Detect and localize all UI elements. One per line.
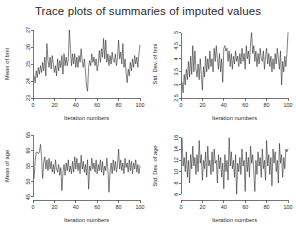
y-tick-label: 50 [25, 178, 31, 184]
y-axis-title: Mean of bmi [4, 48, 10, 80]
y-tick-label: 45 [25, 194, 31, 200]
trace-line [182, 138, 288, 195]
x-tick-label: 0 [180, 102, 183, 108]
x-tick-label: 100 [284, 102, 293, 108]
x-tick-label: 100 [136, 102, 145, 108]
y-axis-title: Std. Dev. of age [152, 145, 158, 186]
x-tick-label: 60 [242, 204, 248, 210]
y-tick-label: 3 [173, 83, 179, 86]
trace-chart-3: 020406080100Iteration numbers4550556065M… [0, 124, 148, 226]
y-tick-label: 16 [173, 135, 179, 141]
x-tick-label: 60 [242, 102, 248, 108]
trace-chart-1: 020406080100Iteration numbers2324252627M… [0, 22, 148, 124]
y-tick-label: 3.5 [173, 68, 179, 76]
y-tick-label: 65 [25, 132, 31, 138]
x-axis-title: Iteration numbers [212, 217, 257, 223]
y-tick-label: 55 [25, 163, 31, 169]
x-axis-title: Iteration numbers [64, 217, 109, 223]
trace-plot-figure: Trace plots of summaries of imputed valu… [0, 0, 296, 232]
x-tick-label: 0 [32, 204, 35, 210]
trace-line [34, 30, 140, 91]
x-tick-label: 100 [284, 204, 293, 210]
page-title: Trace plots of summaries of imputed valu… [0, 5, 296, 17]
trace-chart-4: 020406080100Iteration numbers6810121416S… [148, 124, 296, 226]
panel-mean-of-bmi: 020406080100Iteration numbers2324252627M… [0, 22, 148, 124]
panel-mean-of-age: 020406080100Iteration numbers4550556065M… [0, 124, 148, 226]
x-tick-label: 40 [73, 204, 79, 210]
x-tick-label: 80 [264, 204, 270, 210]
trace-line [182, 33, 288, 93]
trace-line [34, 144, 140, 192]
trace-chart-2: 020406080100Iteration numbers2.533.544.5… [148, 22, 296, 124]
y-tick-label: 2.5 [173, 94, 179, 102]
panel-std-dev-of-age: 020406080100Iteration numbers6810121416S… [148, 124, 296, 226]
x-tick-label: 20 [199, 204, 205, 210]
y-tick-label: 24 [25, 78, 31, 84]
y-tick-label: 23 [25, 95, 31, 101]
y-tick-label: 12 [173, 157, 179, 163]
x-tick-label: 20 [51, 204, 57, 210]
x-tick-label: 100 [136, 204, 145, 210]
y-tick-label: 27 [25, 27, 31, 33]
y-tick-label: 25 [25, 61, 31, 67]
x-tick-label: 40 [73, 102, 79, 108]
x-tick-label: 60 [94, 204, 100, 210]
y-tick-label: 14 [173, 146, 179, 152]
y-tick-label: 26 [25, 44, 31, 50]
y-tick-label: 5 [173, 31, 179, 34]
x-tick-label: 20 [51, 102, 57, 108]
x-tick-label: 40 [221, 204, 227, 210]
x-axis-title: Iteration numbers [212, 115, 257, 121]
x-tick-label: 60 [94, 102, 100, 108]
y-tick-label: 4.5 [173, 42, 179, 50]
y-tick-label: 60 [25, 148, 31, 154]
y-tick-label: 6 [173, 193, 179, 196]
x-tick-label: 0 [180, 204, 183, 210]
y-axis-title: Mean of age [4, 150, 10, 182]
x-tick-label: 80 [116, 102, 122, 108]
y-tick-label: 8 [173, 182, 179, 185]
x-axis-title: Iteration numbers [64, 115, 109, 121]
x-tick-label: 0 [32, 102, 35, 108]
x-tick-label: 20 [199, 102, 205, 108]
panel-std-dev-of-bmi: 020406080100Iteration numbers2.533.544.5… [148, 22, 296, 124]
x-tick-label: 80 [264, 102, 270, 108]
x-tick-label: 80 [116, 204, 122, 210]
y-axis-title: Std. Dev. of bmi [152, 44, 158, 85]
y-tick-label: 10 [173, 169, 179, 175]
x-tick-label: 40 [221, 102, 227, 108]
y-tick-label: 4 [173, 57, 179, 60]
